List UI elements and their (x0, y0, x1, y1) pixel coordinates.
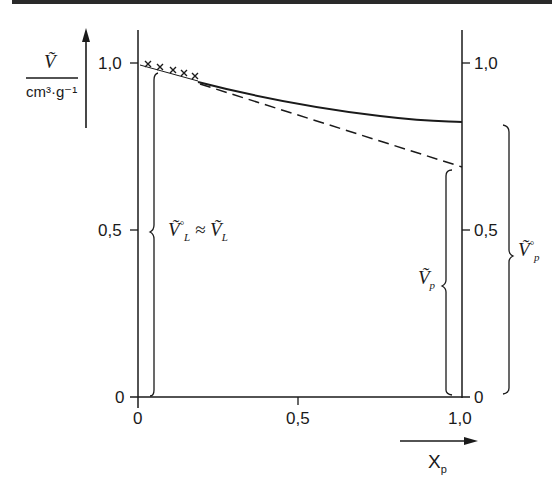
tick-right-1: 1,0 (474, 55, 498, 72)
brace-vp (442, 170, 452, 395)
annotation-vl: Ṽ°L ≈ ṼL (168, 220, 228, 243)
tick-x-0: 0 (133, 410, 142, 427)
data-point-markers (140, 61, 198, 81)
annotation-vp: Ṽp (418, 268, 435, 291)
tick-left-1: 1,0 (98, 55, 122, 72)
tick-right-05: 0,5 (474, 222, 498, 239)
dashed-ideal-line (200, 84, 462, 167)
tick-right-0: 0 (474, 389, 483, 406)
annotation-vp0: Ṽ°p (518, 240, 540, 263)
y-label-denominator: cm³·g⁻¹ (26, 84, 77, 99)
tick-left-05: 0,5 (98, 222, 122, 239)
tick-x-1: 1,0 (448, 410, 472, 427)
solid-measured-curve (198, 82, 462, 122)
x-arrow-head-icon (464, 437, 478, 445)
y-arrow-head-icon (82, 28, 90, 42)
tick-x-05: 0,5 (286, 410, 310, 427)
brace-vl (150, 73, 158, 396)
x-axis-label: Xp (428, 452, 447, 475)
brace-vp0 (503, 125, 513, 394)
y-label-numerator: Ṽ (44, 52, 56, 71)
tick-left-0: 0 (115, 389, 124, 406)
